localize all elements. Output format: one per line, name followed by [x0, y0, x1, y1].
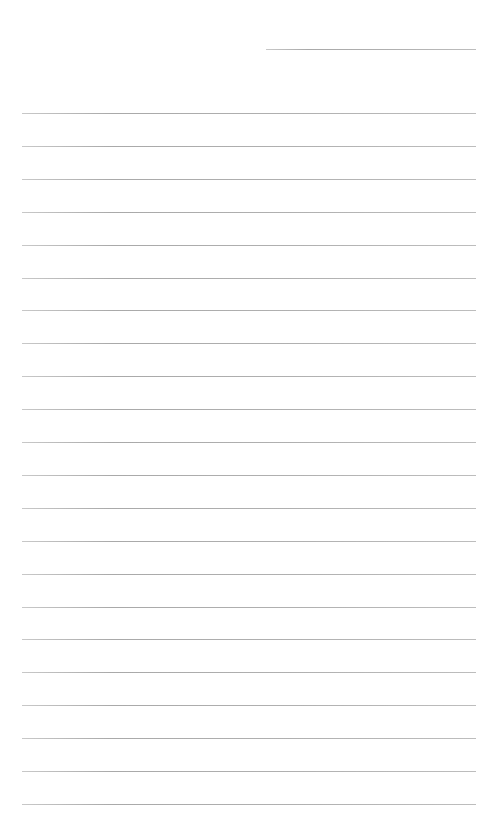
- ruled-line: [22, 179, 476, 180]
- ruled-line: [22, 113, 476, 114]
- ruled-line: [22, 409, 476, 410]
- ruled-line: [22, 672, 476, 673]
- ruled-line: [22, 442, 476, 443]
- ruled-line: [22, 343, 476, 344]
- ruled-line: [22, 310, 476, 311]
- header-line: [266, 49, 476, 50]
- ruled-line: [22, 738, 476, 739]
- ruled-line: [22, 245, 476, 246]
- ruled-line: [22, 212, 476, 213]
- ruled-line: [22, 376, 476, 377]
- ruled-line: [22, 771, 476, 772]
- ruled-line: [22, 508, 476, 509]
- ruled-line: [22, 607, 476, 608]
- ruled-line: [22, 278, 476, 279]
- ruled-line: [22, 146, 476, 147]
- ruled-line: [22, 541, 476, 542]
- ruled-line: [22, 705, 476, 706]
- ruled-line: [22, 804, 476, 805]
- ruled-line: [22, 475, 476, 476]
- ruled-line: [22, 639, 476, 640]
- ruled-line: [22, 574, 476, 575]
- lined-paper-page: [0, 0, 498, 834]
